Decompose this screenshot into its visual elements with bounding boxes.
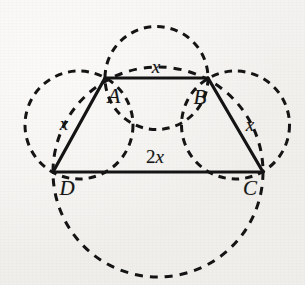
side-label-bottom: 2x (146, 147, 164, 166)
vertex-label-d: D (59, 178, 74, 199)
vertex-label-b: B (194, 87, 207, 108)
side-label-right: x (246, 115, 254, 134)
trapezoid-circles-figure (0, 0, 305, 285)
diagram-canvas: x x x 2x A B C D (0, 0, 305, 285)
side-label-left: x (60, 114, 68, 133)
side-label-top: x (152, 57, 160, 76)
vertex-label-a: A (108, 86, 121, 107)
vertex-label-c: C (243, 178, 257, 199)
side-BC (208, 78, 263, 172)
